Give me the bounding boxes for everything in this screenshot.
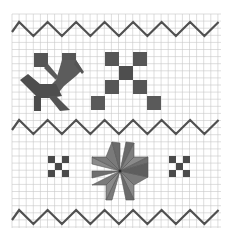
- small-cross-right: [169, 156, 190, 177]
- middle-zigzag: [12, 120, 219, 134]
- embroidery-pattern: [0, 0, 235, 241]
- bird-motif: [20, 53, 84, 111]
- bottom-zigzag: [12, 210, 219, 224]
- small-cross-left: [48, 156, 69, 177]
- top-zigzag: [12, 22, 219, 36]
- x-cross-motif: [91, 52, 161, 110]
